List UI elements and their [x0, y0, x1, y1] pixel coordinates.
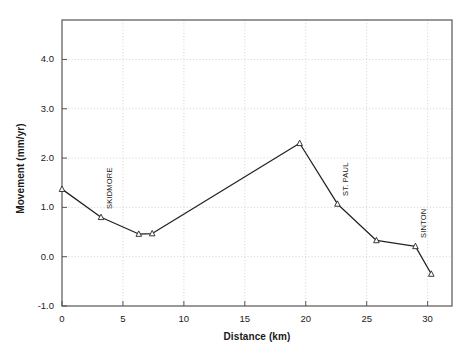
x-tick-label: 5	[103, 313, 143, 324]
site-label: SINTON	[419, 209, 428, 238]
y-tick-label: 3.0	[14, 103, 54, 114]
data-point-markers	[59, 140, 434, 276]
y-tick-label: 0.0	[14, 251, 54, 262]
y-tick-label: -1.0	[14, 300, 54, 311]
axis-ticks	[62, 59, 428, 306]
site-label: SKIDMORE	[105, 168, 114, 210]
data-line-series	[62, 143, 431, 274]
y-tick-label: 1.0	[14, 201, 54, 212]
y-axis-title: Movement (mm/yr)	[15, 104, 26, 234]
y-tick-label: 2.0	[14, 152, 54, 163]
x-tick-label: 15	[225, 313, 265, 324]
x-axis-title: Distance (km)	[167, 331, 347, 342]
plot-frame	[62, 20, 452, 306]
x-tick-label: 0	[42, 313, 82, 324]
x-tick-label: 10	[164, 313, 204, 324]
y-tick-label: 4.0	[14, 53, 54, 64]
chart-figure: Movement (mm/yr) Distance (km) -1.00.01.…	[0, 0, 470, 355]
site-label: ST. PAUL	[341, 162, 350, 196]
x-tick-label: 20	[286, 313, 326, 324]
x-tick-label: 25	[347, 313, 387, 324]
x-tick-label: 30	[408, 313, 448, 324]
gridlines	[62, 20, 452, 306]
chart-plot-area	[0, 0, 470, 355]
